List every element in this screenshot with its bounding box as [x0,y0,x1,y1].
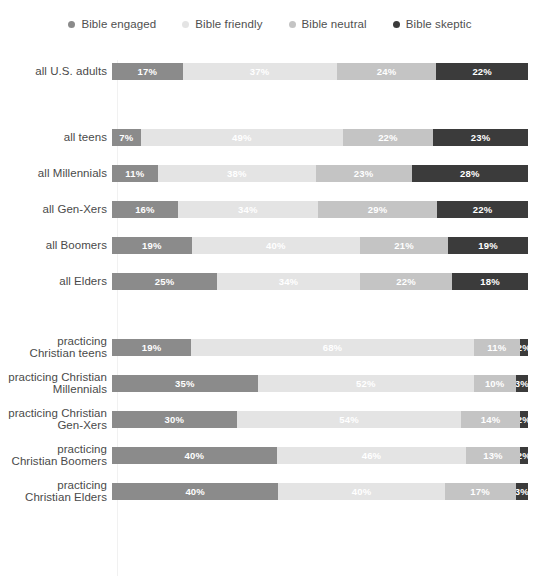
bar-segment[interactable]: 28% [412,165,528,182]
bar-segment[interactable]: 30% [112,411,237,428]
bar-segment[interactable]: 22% [360,273,452,290]
row-label-line: practicing [0,443,107,456]
bar-segment[interactable]: 38% [158,165,316,182]
stacked-bar: 16%34%29%22% [112,201,528,218]
bar-segment[interactable]: 37% [183,63,337,80]
chart-row: all Elders25%34%22%18% [0,270,540,292]
row-label-line: Gen-Xers [0,419,107,432]
bar-segment[interactable]: 22% [436,63,528,80]
bar-segment[interactable]: 46% [277,447,466,464]
bar-segment-value: 25% [155,276,175,287]
bar-segment[interactable]: 24% [337,63,437,80]
bar-segment-value: 23% [354,168,374,179]
bar-segment-value: 34% [238,204,258,215]
bar-segment-value: 46% [362,450,382,461]
row-label-line: all Millennials [0,167,107,180]
row-label: all Millennials [0,167,112,180]
legend-item-2[interactable]: Bible neutral [289,18,367,30]
bar-segment[interactable]: 17% [112,63,183,80]
bar-segment[interactable]: 19% [112,237,192,254]
legend-label: Bible friendly [195,18,262,30]
bar-segment[interactable]: 19% [112,339,191,356]
bar-segment[interactable]: 17% [445,483,516,500]
bar-segment[interactable]: 35% [112,375,258,392]
bar-segment[interactable]: 40% [112,447,277,464]
bar-segment-value: 21% [394,240,414,251]
row-label-line: all Boomers [0,239,107,252]
row-label-line: all Elders [0,275,107,288]
bar-segment-value: 2% [520,414,528,425]
stacked-bar: 11%38%23%28% [112,165,528,182]
bar-segment-value: 2% [520,450,528,461]
bar-segment[interactable]: 2% [520,339,528,356]
bar-segment-value: 40% [352,486,372,497]
stacked-bar: 7%49%22%23% [112,129,528,146]
row-label-line: all teens [0,131,107,144]
bar-segment-value: 11% [487,342,506,353]
bar-segment[interactable]: 34% [217,273,360,290]
bar-segment-value: 13% [483,450,503,461]
bar-segment[interactable]: 21% [360,237,448,254]
legend-dot-icon [68,21,75,28]
row-label-line: practicing [0,335,107,348]
bar-segment[interactable]: 49% [141,129,343,146]
bar-segment[interactable]: 40% [112,483,278,500]
stacked-bar: 40%46%13%2% [112,447,528,464]
bar-segment-value: 3% [516,486,528,497]
row-label-line: Christian teens [0,347,107,360]
stacked-bar: 19%40%21%19% [112,237,528,254]
bar-segment[interactable]: 52% [258,375,474,392]
bar-segment-value: 19% [478,240,498,251]
bar-segment[interactable]: 10% [474,375,516,392]
bar-segment[interactable]: 34% [178,201,318,218]
bar-segment[interactable]: 19% [448,237,528,254]
legend-item-3[interactable]: Bible skeptic [393,18,472,30]
bar-segment-value: 19% [142,240,162,251]
bar-segment[interactable]: 16% [112,201,178,218]
bar-segment-value: 28% [460,168,480,179]
bar-segment-value: 38% [227,168,247,179]
chart-row: practicingChristian teens19%68%11%2% [0,336,540,358]
bar-segment-value: 17% [470,486,490,497]
bar-segment-value: 2% [520,342,528,353]
stacked-bar: 30%54%14%2% [112,411,528,428]
row-label: all Boomers [0,239,112,252]
legend-dot-icon [289,21,296,28]
legend-label: Bible neutral [302,18,367,30]
bar-segment[interactable]: 54% [237,411,462,428]
legend-item-0[interactable]: Bible engaged [68,18,156,30]
bar-segment-value: 68% [323,342,343,353]
bar-segment[interactable]: 29% [318,201,437,218]
stacked-bar: 17%37%24%22% [112,63,528,80]
bar-segment[interactable]: 23% [316,165,412,182]
bar-segment[interactable]: 3% [516,375,528,392]
bar-segment[interactable]: 22% [437,201,528,218]
chart-row: practicingChristian Boomers40%46%13%2% [0,444,540,466]
bar-segment[interactable]: 40% [192,237,360,254]
bar-segment[interactable]: 68% [191,339,474,356]
bar-segment[interactable]: 3% [516,483,528,500]
row-label: practicingChristian Elders [0,479,112,504]
stacked-bar: 35%52%10%3% [112,375,528,392]
bar-segment[interactable]: 7% [112,129,141,146]
row-label-line: all U.S. adults [0,65,107,78]
chart-row: all U.S. adults17%37%24%22% [0,60,540,82]
bar-segment[interactable]: 25% [112,273,217,290]
bar-segment[interactable]: 13% [466,447,520,464]
bar-segment[interactable]: 14% [461,411,519,428]
bar-segment[interactable]: 2% [520,411,528,428]
bar-segment[interactable]: 23% [433,129,528,146]
bar-segment[interactable]: 40% [278,483,444,500]
bar-segment-value: 22% [472,66,492,77]
bar-segment-value: 54% [339,414,359,425]
row-label: practicing ChristianGen-Xers [0,407,112,432]
bar-segment-value: 49% [232,132,252,143]
bar-segment-value: 11% [125,168,144,179]
chart-row: practicingChristian Elders40%40%17%3% [0,480,540,502]
bar-segment[interactable]: 11% [474,339,520,356]
bar-segment[interactable]: 22% [343,129,434,146]
legend-item-1[interactable]: Bible friendly [182,18,262,30]
bar-segment[interactable]: 11% [112,165,158,182]
bar-segment[interactable]: 2% [520,447,528,464]
bar-segment[interactable]: 18% [452,273,528,290]
